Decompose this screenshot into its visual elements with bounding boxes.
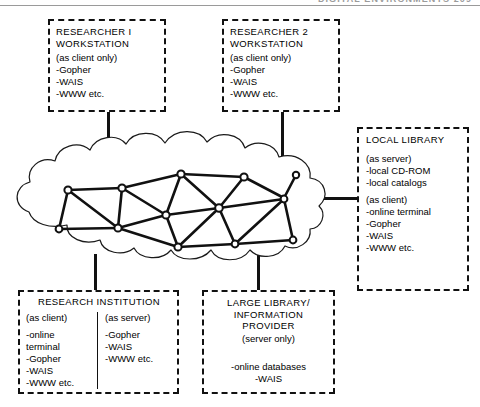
large-library-role: (server only) — [210, 333, 327, 345]
researcher1-title: RESEARCHER I WORKSTATION — [56, 26, 158, 49]
network-node — [64, 186, 71, 193]
research-institution-title: RESEARCH INSTITUTION — [26, 296, 172, 308]
network-node — [281, 196, 288, 203]
researcher1-role: (as client only) — [56, 52, 158, 64]
network-node — [215, 204, 223, 212]
research-institution-client-column: (as client) -online terminal -Gopher -WA… — [26, 312, 97, 389]
network-node — [240, 173, 247, 180]
research-institution-server-column: (as server) -Gopher -WAIS -WWW etc. — [97, 312, 172, 389]
network-node — [56, 226, 63, 233]
large-library-title: LARGE LIBRARY/ INFORMATION PROVIDER — [210, 297, 327, 332]
network-node — [290, 237, 297, 244]
large-library-gap — [210, 345, 327, 361]
network-node — [114, 224, 121, 231]
research-institution-server-services: -Gopher -WAIS -WWW etc. — [105, 329, 172, 365]
local-library-client-services: -online terminal -Gopher -WAIS -WWW etc. — [366, 206, 461, 254]
figure-page: DIGITAL ENVIRONMENTS 209 — [0, 0, 480, 407]
researcher2-workstation-box: RESEARCHER 2 WORKSTATION (as client only… — [222, 19, 340, 112]
large-library-box: LARGE LIBRARY/ INFORMATION PROVIDER (ser… — [202, 290, 335, 394]
large-library-services: -online databases -WAIS — [210, 361, 327, 385]
research-institution-server-role: (as server) — [105, 312, 172, 324]
network-node — [174, 243, 181, 250]
local-library-box: LOCAL LIBRARY (as server) -local CD-ROM … — [357, 127, 469, 291]
researcher2-services: -Gopher -WAIS -WWW etc. — [230, 64, 332, 100]
network-node — [232, 241, 239, 248]
local-library-server-role: (as server) — [366, 153, 461, 165]
research-institution-columns: (as client) -online terminal -Gopher -WA… — [26, 312, 172, 389]
network-node — [293, 172, 299, 178]
researcher1-services: -Gopher -WAIS -WWW etc. — [56, 64, 158, 100]
local-library-client-role: (as client) — [366, 194, 461, 206]
research-institution-client-services: -online terminal -Gopher -WAIS -WWW etc. — [26, 329, 93, 389]
researcher2-title: RESEARCHER 2 WORKSTATION — [230, 26, 332, 49]
network-node — [118, 184, 125, 191]
local-library-title: LOCAL LIBRARY — [366, 134, 461, 146]
network-node — [162, 211, 169, 218]
researcher2-role: (as client only) — [230, 52, 332, 64]
local-library-server-services: -local CD-ROM -local catalogs — [366, 165, 461, 189]
research-institution-client-role: (as client) — [26, 312, 93, 324]
network-node — [177, 170, 184, 177]
researcher1-workstation-box: RESEARCHER I WORKSTATION (as client only… — [48, 19, 166, 112]
research-institution-box: RESEARCH INSTITUTION (as client) -online… — [18, 290, 179, 394]
